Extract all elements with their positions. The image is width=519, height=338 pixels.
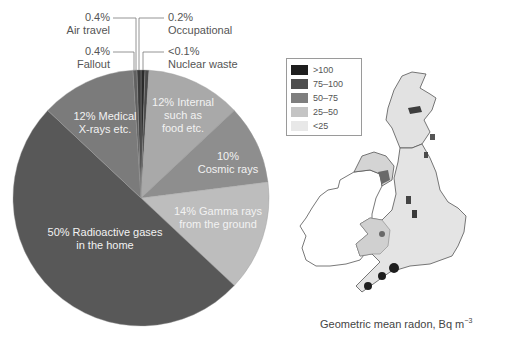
label-radon-line1: 50% Radioactive gases (40, 226, 170, 239)
label-medical-line1: 12% Medical (65, 110, 145, 123)
label-nuclear-waste: <0.1% Nuclear waste (168, 45, 238, 71)
leader-lines (113, 18, 164, 70)
label-cosmic: 10% Cosmic rays (188, 150, 268, 176)
map-caption-sup: −3 (464, 317, 472, 324)
legend-label: 50–75 (313, 93, 338, 103)
map-northumberland-high (430, 134, 435, 140)
map-derbyshire-high (406, 196, 411, 204)
label-fallout: 0.4% Fallout (48, 45, 110, 71)
label-gamma-line2: from the ground (168, 218, 268, 231)
label-occupational-pct: 0.2% (168, 11, 232, 24)
label-nuclear-waste-name: Nuclear waste (168, 58, 238, 71)
map-cornwall-high-1 (378, 272, 386, 280)
label-fallout-pct: 0.4% (48, 45, 110, 58)
map-north-yorkshire-high (424, 152, 428, 158)
label-radon-line2: in the home (40, 239, 170, 252)
label-air-travel: 0.4% Air travel (48, 11, 110, 37)
legend-row-lt25: <25 (291, 120, 328, 132)
map-caption: Geometric mean radon, Bq m−3 (320, 317, 472, 330)
legend-label: 25–50 (313, 107, 338, 117)
label-radon: 50% Radioactive gases in the home (40, 226, 170, 252)
label-gamma: 14% Gamma rays from the ground (168, 205, 268, 231)
pie-slices (13, 70, 269, 326)
legend-label: <25 (313, 121, 328, 131)
legend-swatch (291, 93, 308, 103)
label-occupational: 0.2% Occupational (168, 11, 232, 37)
map-caption-text: Geometric mean radon, Bq m (320, 318, 464, 330)
legend-row-75-100: 75–100 (291, 78, 343, 90)
label-cosmic-line2: Cosmic rays (188, 163, 268, 176)
label-air-travel-name: Air travel (48, 24, 110, 37)
map-devon-high (389, 263, 399, 273)
label-internal-line3: food etc. (143, 122, 223, 135)
legend-swatch (291, 107, 308, 117)
label-cosmic-line1: 10% (188, 150, 268, 163)
label-internal: 12% Internal such as food etc. (143, 96, 223, 135)
leader-nuclear-waste (143, 52, 164, 70)
label-medical: 12% Medical X-rays etc. (65, 110, 145, 136)
legend-row-50-75: 50–75 (291, 92, 338, 104)
leader-air-travel (113, 18, 136, 70)
leader-fallout (113, 52, 134, 70)
label-internal-line2: such as (143, 109, 223, 122)
label-gamma-line1: 14% Gamma rays (168, 205, 268, 218)
map-cornwall-high-2 (364, 282, 372, 290)
legend-row-gt100: >100 (291, 64, 333, 76)
legend-row-25-50: 25–50 (291, 106, 338, 118)
map-northamptonshire-high (412, 210, 417, 218)
label-internal-line1: 12% Internal (143, 96, 223, 109)
label-medical-line2: X-rays etc. (65, 123, 145, 136)
label-occupational-name: Occupational (168, 24, 232, 37)
legend-label: 75–100 (313, 79, 343, 89)
legend-swatch (291, 121, 308, 131)
legend-swatch (291, 79, 308, 89)
legend-swatch (291, 65, 308, 75)
label-nuclear-waste-pct: <0.1% (168, 45, 238, 58)
label-fallout-name: Fallout (48, 58, 110, 71)
map-legend: >100 75–100 50–75 25–50 <25 (286, 58, 362, 136)
legend-label: >100 (313, 65, 333, 75)
label-air-travel-pct: 0.4% (48, 11, 110, 24)
map-wales-moderate (379, 231, 385, 237)
